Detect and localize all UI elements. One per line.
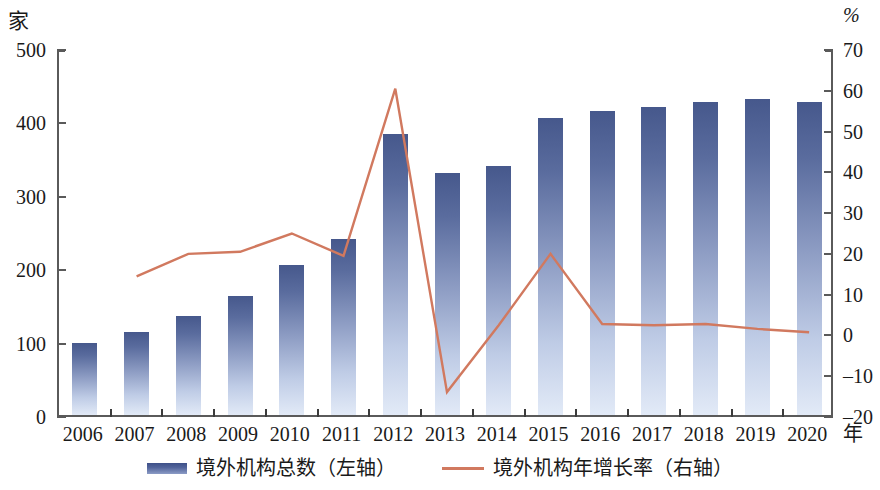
right-axis-tick — [824, 375, 833, 377]
right-axis-unit-label: % — [843, 4, 860, 27]
right-axis-tick — [824, 253, 833, 255]
x-axis-tick — [472, 409, 474, 417]
left-axis-tick — [57, 416, 66, 418]
x-axis-tick-label: 2020 — [776, 424, 838, 444]
right-axis-tick — [824, 90, 833, 92]
left-axis-tick — [57, 343, 66, 345]
right-axis-tick-label: 60 — [843, 81, 880, 101]
x-axis-tick — [679, 409, 681, 417]
bar — [279, 265, 304, 415]
x-axis-unit-label: 年 — [843, 424, 863, 444]
bar — [486, 166, 511, 415]
x-axis-tick — [627, 409, 629, 417]
bar — [797, 102, 822, 415]
x-axis-tick — [575, 409, 577, 417]
right-axis-tick — [824, 416, 833, 418]
right-axis-tick-label: –10 — [843, 366, 880, 386]
chart-legend: 境外机构总数（左轴） 境外机构年增长率（右轴） — [0, 458, 880, 478]
right-axis-tick-label: 50 — [843, 122, 880, 142]
bar — [435, 173, 460, 415]
left-axis-tick-label: 300 — [0, 187, 46, 207]
right-axis-tick — [824, 294, 833, 296]
bar — [745, 99, 770, 415]
left-axis-tick — [57, 49, 66, 51]
bar — [124, 332, 149, 415]
bar — [538, 118, 563, 415]
left-axis-tick — [57, 269, 66, 271]
x-axis-tick — [524, 409, 526, 417]
left-axis-tick-label: 400 — [0, 113, 46, 133]
left-axis-tick-label: 200 — [0, 260, 46, 280]
left-axis-tick — [57, 196, 66, 198]
left-axis-tick-label: 100 — [0, 334, 46, 354]
right-axis-tick — [824, 49, 833, 51]
right-axis-tick-label: 40 — [843, 162, 880, 182]
right-axis-tick-label: 0 — [843, 325, 880, 345]
x-axis-tick — [782, 409, 784, 417]
x-axis-tick — [161, 409, 163, 417]
x-axis-tick — [420, 409, 422, 417]
right-axis-tick-label: 70 — [843, 40, 880, 60]
legend-label-growth-rate: 境外机构年增长率（右轴） — [493, 458, 733, 478]
legend-item-total-institutions[interactable]: 境外机构总数（左轴） — [147, 458, 396, 478]
legend-label-total-institutions: 境外机构总数（左轴） — [196, 458, 396, 478]
x-axis-tick — [213, 409, 215, 417]
bar — [72, 343, 97, 415]
right-axis-tick-label: 20 — [843, 244, 880, 264]
x-axis-tick — [368, 409, 370, 417]
line-swatch-icon — [442, 467, 484, 470]
chart-container: 家 % 5004003002001000 706050403020100–10–… — [0, 0, 880, 490]
right-axis-tick — [824, 212, 833, 214]
left-axis-tick-label: 500 — [0, 40, 46, 60]
bar — [590, 111, 615, 415]
right-axis-tick — [824, 334, 833, 336]
x-axis-tick — [110, 409, 112, 417]
left-axis-tick — [57, 122, 66, 124]
right-axis-tick-label: 30 — [843, 203, 880, 223]
plot-area — [57, 50, 833, 417]
bar-swatch-icon — [147, 463, 187, 474]
bar — [331, 239, 356, 415]
left-axis-unit-label: 家 — [8, 4, 29, 34]
bar — [641, 107, 666, 415]
right-axis-tick — [824, 131, 833, 133]
legend-item-growth-rate[interactable]: 境外机构年增长率（右轴） — [442, 458, 733, 478]
bar — [693, 102, 718, 415]
left-axis-tick-label: 0 — [0, 407, 46, 427]
bar — [383, 134, 408, 415]
right-axis-tick — [824, 171, 833, 173]
x-axis-tick — [265, 409, 267, 417]
bar — [228, 296, 253, 415]
x-axis-tick — [317, 409, 319, 417]
x-axis-tick — [731, 409, 733, 417]
bar — [176, 316, 201, 415]
right-axis-tick-label: 10 — [843, 285, 880, 305]
